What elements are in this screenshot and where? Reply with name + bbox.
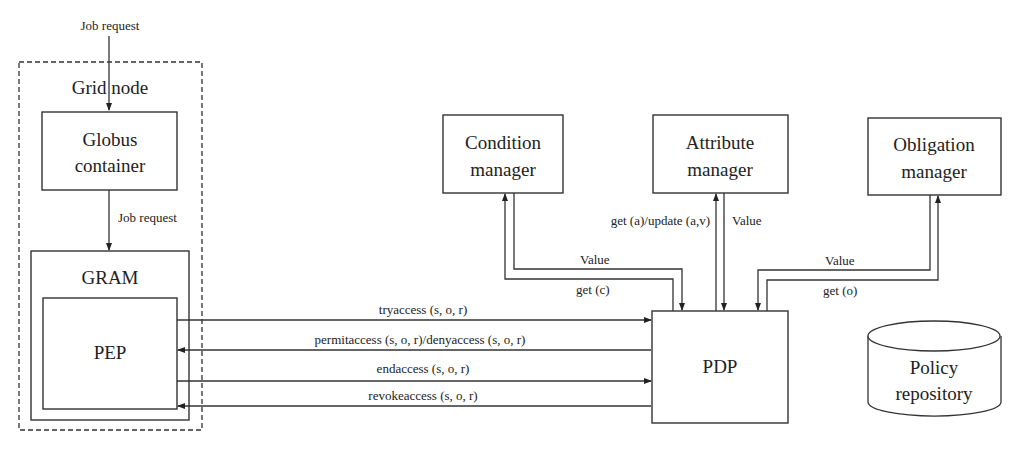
condition-value-label: Value: [580, 252, 610, 267]
obligation-manager-label-2: manager: [901, 161, 967, 182]
gram-label: GRAM: [81, 267, 138, 288]
pdp-label: PDP: [703, 356, 738, 377]
obligation-manager-label-1: Obligation: [893, 134, 975, 155]
condition-manager-box[interactable]: Condition manager: [443, 115, 563, 193]
get-update-label: get (a)/update (a,v): [611, 213, 710, 228]
external-job-request-label: Job request: [81, 18, 140, 33]
policy-repository-label-1: Policy: [910, 357, 959, 378]
pdp-box[interactable]: PDP: [652, 311, 788, 423]
usage-control-architecture-diagram: Job request Grid node Globus container J…: [0, 0, 1024, 451]
get-c-label: get (c): [576, 282, 610, 297]
condition-manager-label-1: Condition: [465, 132, 542, 153]
revokeaccess-label: revokeaccess (s, o, r): [368, 388, 477, 403]
attribute-manager-box[interactable]: Attribute manager: [653, 115, 788, 193]
tryaccess-label: tryaccess (s, o, r): [379, 302, 467, 317]
condition-manager-label-2: manager: [470, 159, 536, 180]
endaccess-label: endaccess (s, o, r): [377, 361, 470, 376]
globus-container-label-1: Globus: [83, 129, 138, 150]
permit-deny-label: permitaccess (s, o, r)/denyaccess (s, o,…: [315, 332, 526, 347]
pep-label: PEP: [94, 342, 127, 363]
policy-repository-cylinder[interactable]: Policy repository: [868, 321, 1001, 416]
grid-node-label: Grid node: [72, 77, 149, 98]
inner-job-request-label: Job request: [118, 210, 177, 225]
get-o-label: get (o): [823, 283, 857, 298]
attribute-manager-label-1: Attribute: [686, 132, 755, 153]
globus-container-box[interactable]: Globus container: [42, 112, 177, 190]
obligation-value-label: Value: [825, 253, 855, 268]
globus-container-label-2: container: [75, 155, 146, 176]
obligation-manager-box[interactable]: Obligation manager: [868, 118, 1001, 195]
policy-repository-label-2: repository: [895, 383, 973, 404]
pep-box[interactable]: PEP: [43, 298, 177, 409]
attribute-manager-label-2: manager: [687, 159, 753, 180]
attribute-value-label: Value: [732, 213, 762, 228]
